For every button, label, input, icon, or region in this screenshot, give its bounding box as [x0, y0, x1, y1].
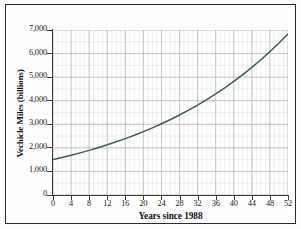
y-tick-mark [47, 53, 53, 54]
y-tick-mark [47, 171, 53, 172]
x-axis-title: Years since 1988 [53, 211, 288, 221]
data-curve [53, 30, 288, 195]
y-axis-title: Vechicle Miles (billions) [15, 31, 29, 196]
figure-container: 01,0002,0003,0004,0005,0006,0007,000 048… [0, 0, 301, 229]
x-axis-line [52, 195, 289, 196]
y-tick-mark [47, 77, 53, 78]
y-tick-mark [47, 147, 53, 148]
figure-frame: 01,0002,0003,0004,0005,0006,0007,000 048… [5, 4, 296, 224]
y-tick-mark [47, 124, 53, 125]
x-tick-label: 52 [277, 199, 299, 208]
plot-area [53, 30, 288, 195]
y-tick-mark [47, 100, 53, 101]
y-tick-mark [47, 30, 53, 31]
